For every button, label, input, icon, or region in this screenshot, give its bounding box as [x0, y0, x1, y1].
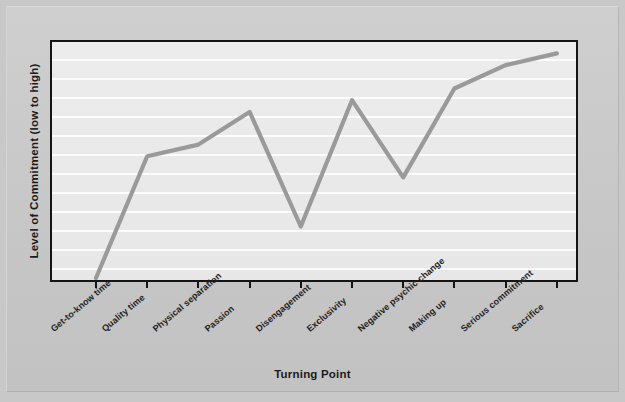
commitment-line: [96, 53, 557, 278]
x-axis-tick: [453, 281, 455, 288]
data-line-svg: [52, 42, 576, 280]
x-axis-tick: [351, 281, 353, 288]
x-axis-title: Turning Point: [0, 368, 625, 380]
x-axis-tick: [146, 281, 148, 288]
x-axis-tick: [556, 281, 558, 288]
y-axis-title: Level of Commitment (low to high): [22, 40, 46, 282]
plot-area: [50, 40, 578, 282]
chart-page: Level of Commitment (low to high) Get-to…: [0, 0, 625, 402]
x-axis-tick: [249, 281, 251, 288]
